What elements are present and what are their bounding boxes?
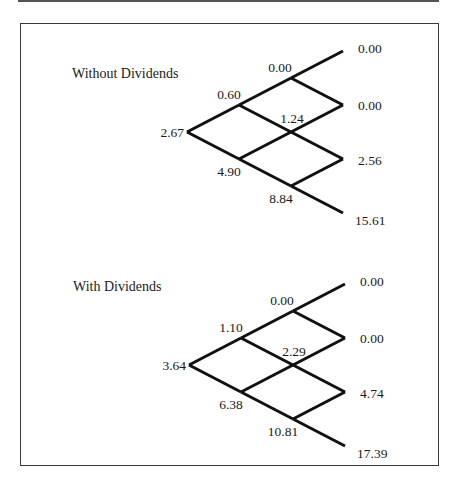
node-value-step1-down: 6.38 [219,397,243,412]
node-value-terminal-1: 0.00 [358,41,382,56]
node-value-step2-downdown: 8.84 [269,191,293,206]
node-value-step2-upup: 0.00 [270,293,294,308]
tree-branch [187,105,239,132]
node-value-root: 2.67 [160,125,184,140]
node-value-terminal-3: 4.74 [360,386,384,401]
tree-branch [241,392,293,419]
tree-lines-with-dividends [189,284,345,446]
node-value-step1-up: 0.60 [217,87,241,102]
tree-branch [291,51,343,78]
tree-branch [293,365,345,392]
tree-title: With Dividends [73,279,161,295]
node-value-step1-up: 1.10 [219,320,243,335]
node-value-terminal-3: 2.56 [358,153,382,168]
tree-branch [291,78,343,105]
tree-lines-without-dividends [187,51,343,213]
node-value-step2-mid: 2.29 [282,344,306,359]
node-value-step1-down: 4.90 [217,164,241,179]
tree-title: Without Dividends [72,66,178,82]
node-value-step2-downdown: 10.81 [268,424,298,439]
binomial-trees-canvas [0,0,457,486]
node-value-terminal-4: 17.39 [357,446,387,461]
node-value-step2-upup: 0.00 [268,60,292,75]
tree-branch [239,159,291,186]
node-value-terminal-2: 0.00 [358,98,382,113]
tree-branch [291,159,343,186]
tree-branch [291,186,343,213]
node-value-step2-mid: 1.24 [280,111,304,126]
tree-branch [241,365,293,392]
tree-branch [189,365,241,392]
tree-branch [189,338,241,365]
tree-branch [293,284,345,311]
tree-branch [293,419,345,446]
tree-branch [293,392,345,419]
node-value-root: 3.64 [162,358,186,373]
tree-branch [241,311,293,338]
tree-branch [239,132,291,159]
node-value-terminal-2: 0.00 [360,331,384,346]
tree-branch [291,132,343,159]
node-value-terminal-4: 15.61 [355,213,385,228]
node-value-terminal-1: 0.00 [360,274,384,289]
tree-branch [187,132,239,159]
tree-branch [239,78,291,105]
tree-branch [293,311,345,338]
